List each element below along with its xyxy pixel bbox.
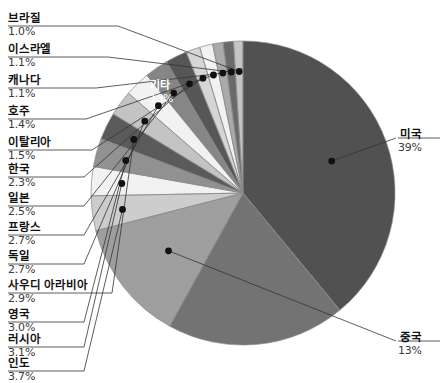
label-value-saudi-arabia: 2.9%	[8, 292, 87, 305]
leader-dot	[186, 80, 193, 87]
leader-dot	[122, 157, 129, 164]
leader-dot	[219, 70, 226, 77]
callout-label-saudi-arabia: 사우디 아라비아 2.9%	[8, 279, 87, 305]
label-name-russia: 러시아	[8, 333, 40, 346]
label-value-india: 3.7%	[8, 370, 35, 383]
inner-label-name-others: 기타	[150, 80, 173, 92]
callout-label-germany: 독일 2.7%	[8, 250, 35, 276]
label-value-france: 2.7%	[8, 234, 40, 247]
callout-label-india: 인도 3.7%	[8, 357, 35, 383]
label-name-brazil: 브라질	[8, 12, 40, 25]
leader-dot	[210, 72, 217, 79]
callout-label-brazil: 브라질 1.0%	[8, 12, 40, 38]
label-value-china: 13%	[398, 344, 422, 357]
label-value-canada: 1.1%	[8, 87, 40, 100]
callout-label-australia: 호주 1.4%	[8, 105, 35, 131]
label-value-israel: 1.1%	[8, 56, 51, 69]
leader-dot	[141, 118, 148, 125]
label-name-india: 인도	[8, 357, 35, 370]
label-name-japan: 일본	[8, 192, 35, 205]
label-value-usa: 39%	[398, 141, 422, 154]
callout-label-italy: 이탈리아 1.5%	[8, 136, 51, 162]
callout-label-korea: 한국 2.3%	[8, 163, 35, 189]
label-value-italy: 1.5%	[8, 149, 51, 162]
label-name-germany: 독일	[8, 250, 35, 263]
callout-label-usa: 미국 39%	[398, 128, 422, 154]
callout-label-france: 프랑스 2.7%	[8, 221, 40, 247]
leader-dot	[119, 206, 126, 213]
label-name-israel: 이스라엘	[8, 43, 51, 56]
leader-dot	[130, 136, 137, 143]
inner-label-others: 기타 19%	[150, 80, 173, 104]
label-name-australia: 호주	[8, 105, 35, 118]
label-name-china: 중국	[398, 331, 422, 344]
leader-dot	[200, 75, 207, 82]
callout-label-canada: 캐나다 1.1%	[8, 74, 40, 100]
inner-label-value-others: 19%	[150, 92, 173, 104]
label-name-italy: 이탈리아	[8, 136, 51, 149]
label-value-korea: 2.3%	[8, 176, 35, 189]
callout-label-japan: 일본 2.5%	[8, 192, 35, 218]
label-name-canada: 캐나다	[8, 74, 40, 87]
callout-label-uk: 영국 3.0%	[8, 308, 35, 334]
label-name-usa: 미국	[398, 128, 422, 141]
callout-label-israel: 이스라엘 1.1%	[8, 43, 51, 69]
label-value-brazil: 1.0%	[8, 25, 40, 38]
leader-dot	[165, 247, 172, 254]
leader-dot	[228, 69, 235, 76]
leader-dot	[236, 68, 243, 75]
leader-dot	[328, 158, 335, 165]
label-value-japan: 2.5%	[8, 205, 35, 218]
label-name-uk: 영국	[8, 308, 35, 321]
label-name-korea: 한국	[8, 163, 35, 176]
callout-label-china: 중국 13%	[398, 331, 422, 357]
label-value-germany: 2.7%	[8, 263, 35, 276]
leader-dot	[118, 180, 125, 187]
label-name-france: 프랑스	[8, 221, 40, 234]
label-value-australia: 1.4%	[8, 118, 35, 131]
label-name-saudi-arabia: 사우디 아라비아	[8, 279, 87, 292]
